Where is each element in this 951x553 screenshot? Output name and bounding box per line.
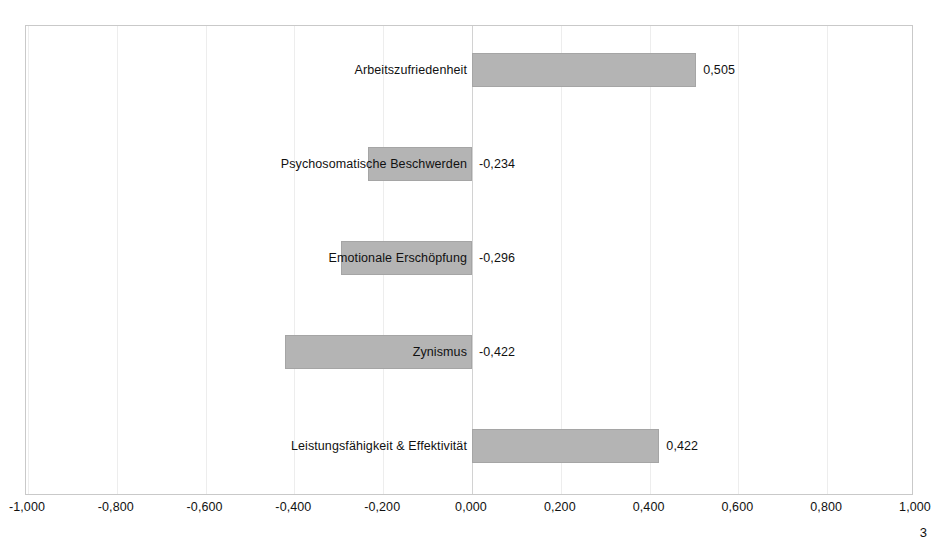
bar-value-label: -0,422 — [479, 345, 515, 359]
bar-chart-figure: Arbeitszufriedenheit0,505Psychosomatisch… — [0, 0, 951, 553]
x-tick-label: -1,000 — [9, 500, 45, 514]
bar-row: Leistungsfähigkeit & Effektivität0,422 — [26, 429, 912, 463]
bar-value-label: 0,422 — [666, 439, 698, 453]
x-tick-label: 0,400 — [633, 500, 665, 514]
x-tick-label: -0,800 — [98, 500, 134, 514]
bar — [472, 53, 696, 87]
bar-value-label: 0,505 — [703, 63, 735, 77]
plot-area: Arbeitszufriedenheit0,505Psychosomatisch… — [25, 25, 913, 495]
x-tick-label: 0,000 — [455, 500, 487, 514]
bar-value-label: -0,296 — [479, 251, 515, 265]
x-tick-label: -0,600 — [187, 500, 223, 514]
bar-category-label: Psychosomatische Beschwerden — [281, 157, 467, 171]
x-tick-label: 0,200 — [544, 500, 576, 514]
bar-category-label: Leistungsfähigkeit & Effektivität — [291, 439, 467, 453]
bar-row: Psychosomatische Beschwerden-0,234 — [26, 147, 912, 181]
bar — [472, 429, 659, 463]
bar-category-label: Emotionale Erschöpfung — [329, 251, 467, 265]
page-number: 3 — [920, 525, 927, 540]
x-tick-label: -0,200 — [364, 500, 400, 514]
bar-row: Zynismus-0,422 — [26, 335, 912, 369]
bar-category-label: Zynismus — [413, 345, 467, 359]
x-axis: -1,000-0,800-0,600-0,400-0,2000,0000,200… — [0, 500, 951, 524]
x-tick-label: 0,600 — [722, 500, 754, 514]
x-tick-label: -0,400 — [275, 500, 311, 514]
x-tick-label: 0,800 — [810, 500, 842, 514]
bar-category-label: Arbeitszufriedenheit — [355, 63, 467, 77]
x-tick-label: 1,000 — [899, 500, 931, 514]
bar-row: Arbeitszufriedenheit0,505 — [26, 53, 912, 87]
bar-value-label: -0,234 — [479, 157, 515, 171]
bar-row: Emotionale Erschöpfung-0,296 — [26, 241, 912, 275]
